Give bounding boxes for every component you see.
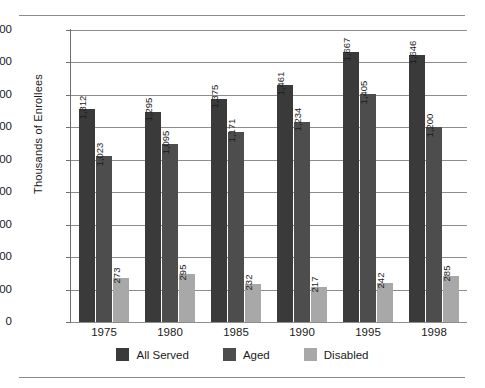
legend-swatch-icon (223, 348, 236, 361)
y-axis-tick-label: 1800 (0, 23, 12, 35)
bar-value-label: 285 (442, 266, 452, 282)
y-axis-tick-mark (66, 192, 71, 193)
bar-group: 1,4611,234217 (277, 30, 327, 322)
y-axis-tick-label: 1400 (0, 88, 12, 100)
gridline (71, 322, 467, 323)
y-axis-tick-mark (66, 62, 71, 63)
y-axis-tick-mark (66, 257, 71, 258)
y-axis-tick-label: 0 (6, 315, 12, 327)
legend-item[interactable]: All Served (116, 348, 188, 361)
y-axis-title: Thousands of Enrollees (32, 34, 44, 234)
bar[interactable]: 232 (245, 284, 261, 322)
bar[interactable]: 273 (113, 278, 129, 322)
bar-value-label: 1,171 (227, 118, 237, 142)
bar-value-label: 1,375 (210, 85, 220, 109)
bar[interactable]: 285 (443, 276, 459, 322)
legend-item-label: Aged (243, 349, 270, 361)
y-axis-tick-mark (66, 95, 71, 96)
bar-value-label: 1,234 (293, 108, 303, 132)
x-axis-tick-label: 1975 (71, 326, 137, 338)
bar-value-label: 1,405 (359, 80, 369, 104)
gridline (71, 30, 467, 31)
gridline (71, 290, 467, 291)
y-axis-tick-mark (66, 322, 71, 323)
legend-swatch-icon (304, 348, 317, 361)
y-axis-tick-label: 1200 (0, 120, 12, 132)
y-axis-tick-mark (66, 30, 71, 31)
bar-group: 1,2951,095295 (145, 30, 195, 322)
y-axis-tick-mark (66, 160, 71, 161)
top-divider-rule (19, 15, 465, 16)
legend-swatch-icon (116, 348, 129, 361)
legend-item-label: Disabled (324, 349, 369, 361)
x-axis-tick-label: 1980 (137, 326, 203, 338)
bar-value-label: 242 (376, 273, 386, 289)
bar[interactable]: 1,095 (162, 144, 178, 322)
legend-item[interactable]: Aged (223, 348, 270, 361)
y-axis-tick-mark (66, 290, 71, 291)
bar-value-label: 1,200 (425, 113, 435, 137)
bar-value-label: 1,461 (276, 71, 286, 95)
bar-value-label: 1,095 (161, 130, 171, 154)
bar-value-label: 273 (112, 268, 122, 284)
bar[interactable]: 1,646 (409, 55, 425, 322)
x-axis-tick-label: 1990 (269, 326, 335, 338)
gridline (71, 95, 467, 96)
x-axis-tick-label: 1998 (401, 326, 467, 338)
bar-value-label: 232 (244, 274, 254, 290)
y-axis-tick-label: 800 (0, 185, 12, 197)
y-axis-tick-label: 400 (0, 250, 12, 262)
bar-group: 1,6461,200285 (409, 30, 459, 322)
y-axis-tick-label: 1000 (0, 153, 12, 165)
bar[interactable]: 1,200 (426, 127, 442, 322)
bar[interactable]: 1,312 (79, 109, 95, 322)
plot-area: 1,3121,0232731,2951,0952951,3751,1712321… (71, 30, 467, 322)
bar-group: 1,6671,405242 (343, 30, 393, 322)
y-axis-tick-mark (66, 225, 71, 226)
y-axis-tick-mark (66, 127, 71, 128)
bar-chart-figure: Thousands of Enrollees 1,3121,0232731,29… (0, 0, 485, 388)
bar[interactable]: 217 (311, 287, 327, 322)
bar-group: 1,3751,171232 (211, 30, 261, 322)
bottom-divider-rule (19, 377, 465, 378)
bar-value-label: 1,023 (95, 142, 105, 166)
x-axis-tick-label: 1985 (203, 326, 269, 338)
bar[interactable]: 295 (179, 274, 195, 322)
y-axis-tick-label: 1600 (0, 55, 12, 67)
gridline (71, 127, 467, 128)
gridline (71, 192, 467, 193)
bar-value-label: 295 (178, 264, 188, 280)
bar-value-label: 1,312 (78, 95, 88, 119)
bar[interactable]: 242 (377, 283, 393, 322)
y-axis-tick-label: 200 (0, 283, 12, 295)
y-axis-tick-label: 600 (0, 218, 12, 230)
bar-value-label: 217 (310, 277, 320, 293)
gridline (71, 257, 467, 258)
bar-value-label: 1,667 (342, 38, 352, 62)
x-axis-tick-label: 1995 (335, 326, 401, 338)
bar-value-label: 1,295 (144, 98, 154, 122)
legend-item[interactable]: Disabled (304, 348, 369, 361)
gridline (71, 225, 467, 226)
bar-value-label: 1,646 (408, 41, 418, 65)
bar[interactable]: 1,171 (228, 132, 244, 322)
chart-legend: All ServedAgedDisabled (0, 348, 485, 361)
bar[interactable]: 1,023 (96, 156, 112, 322)
legend-item-label: All Served (136, 349, 188, 361)
gridline (71, 160, 467, 161)
bar-group: 1,3121,023273 (79, 30, 129, 322)
